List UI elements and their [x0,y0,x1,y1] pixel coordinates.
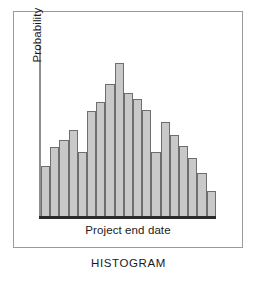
figure-frame: Probability [13,11,243,248]
histogram-bar [78,152,87,216]
histogram-bar [151,152,160,216]
histogram-bar [41,166,50,216]
histogram-bar [133,99,142,216]
histogram-bar [59,140,68,216]
histogram-bar [197,173,206,216]
histogram-bar [188,158,197,216]
histogram-bar [124,93,133,216]
y-axis-title: Probability [31,0,46,90]
histogram-bar [50,147,59,216]
histogram-bar [161,122,170,216]
histogram-bar [170,135,179,216]
histogram-bar [87,111,96,216]
histogram-bar [96,102,105,216]
histogram-bar [179,146,188,216]
x-axis-line [39,216,216,219]
histogram-bar [105,84,114,216]
plot-area [39,46,216,219]
figure-caption: HISTOGRAM [0,257,257,269]
x-axis-title: Project end date [13,224,243,236]
histogram-bar [142,110,151,216]
histogram-bar [69,130,78,216]
histogram-bar [207,191,216,216]
histogram-bars [41,56,216,216]
histogram-bar [115,63,124,216]
histogram-figure: Probability Project end date HISTOGRAM [0,0,257,281]
